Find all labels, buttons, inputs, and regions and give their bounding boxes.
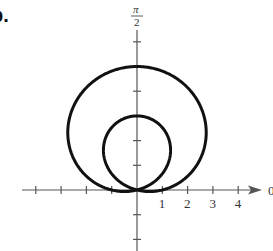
- polar-plot: 1234 π 2 0: [0, 0, 273, 251]
- x-tick-label: 1: [159, 196, 166, 211]
- x-tick-label: 4: [235, 196, 242, 211]
- angle-label-denominator: 2: [134, 16, 140, 28]
- polar-axis-label: 0: [268, 183, 273, 198]
- x-tick-labels: 1234: [159, 196, 242, 211]
- x-tick-label: 2: [184, 196, 191, 211]
- angle-label-numerator: π: [133, 3, 139, 15]
- x-tick-label: 3: [209, 196, 216, 211]
